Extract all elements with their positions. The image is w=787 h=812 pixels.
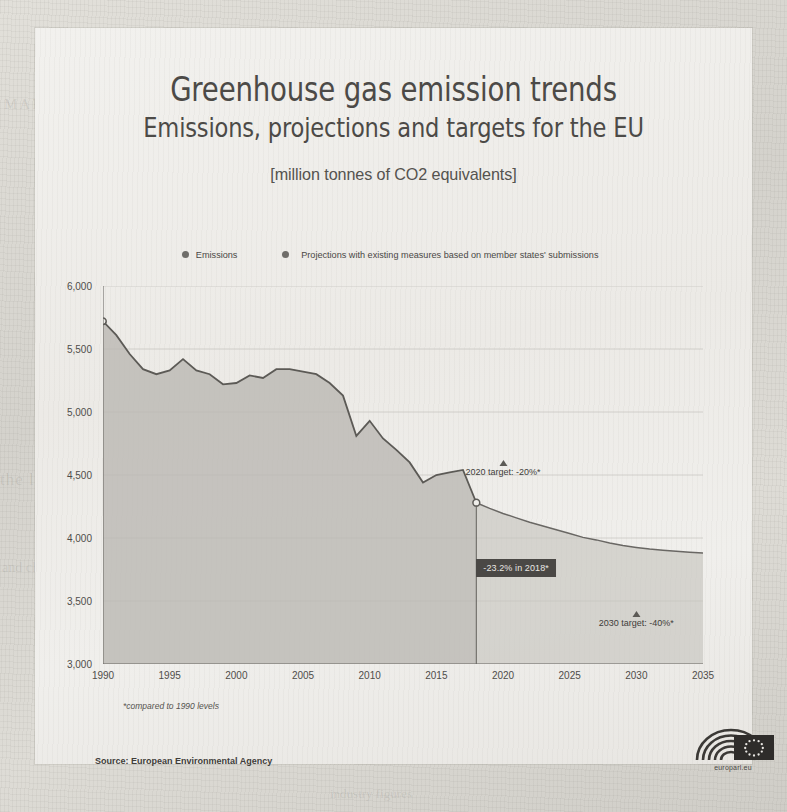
chart-unit-label: [million tonnes of CO2 equivalents] <box>53 165 734 185</box>
x-axis-tick-label: 2015 <box>425 670 447 681</box>
infographic-panel: Greenhouse gas emission trends Emissions… <box>35 28 752 764</box>
y-axis-tick-label: 5,000 <box>67 407 99 418</box>
x-axis-tick-label: 1990 <box>92 670 114 681</box>
y-axis-tick-label: 4,000 <box>67 533 99 544</box>
x-axis-tick-label: 2005 <box>292 670 314 681</box>
chart-legend: Emissions Projections with existing meas… <box>35 249 752 260</box>
parliament-hemicycle-icon <box>687 718 779 762</box>
triangle-up-icon <box>499 460 507 466</box>
x-axis-tick-label: 1995 <box>159 670 181 681</box>
source-label: Source: European Environmental Agency <box>95 756 272 766</box>
european-parliament-logo: europarl.eu <box>687 718 783 780</box>
x-axis-tick-label: 2035 <box>692 670 714 681</box>
y-axis-tick-label: 4,500 <box>67 470 99 481</box>
chart-plot-area: 6,0005,5005,0004,5004,0003,5003,00019901… <box>103 286 703 664</box>
annotation-label: 2030 target: -40%* <box>599 618 674 628</box>
legend-label: Emissions <box>196 249 238 260</box>
target-2020-annotation: 2020 target: -20%* <box>465 460 540 477</box>
page-subtitle: Emissions, projections and targets for t… <box>60 112 727 143</box>
legend-item-emissions[interactable]: Emissions <box>182 249 238 260</box>
logo-mark-icon <box>687 718 779 762</box>
logo-caption: europarl.eu <box>687 764 779 771</box>
chart-svg <box>103 286 703 664</box>
legend-item-projections[interactable]: Projections with existing measures based… <box>282 249 605 260</box>
triangle-up-icon <box>632 611 640 617</box>
annotation-label: 2020 target: -20%* <box>465 467 540 477</box>
x-axis-tick-label: 2030 <box>625 670 647 681</box>
page-title: Greenhouse gas emission trends <box>60 70 727 109</box>
legend-dot-icon <box>282 251 289 258</box>
legend-label: Projections with existing measures based… <box>302 249 599 260</box>
target-2030-annotation: 2030 target: -40%* <box>599 611 674 628</box>
x-axis-tick-label: 2020 <box>492 670 514 681</box>
x-axis-tick-label: 2000 <box>225 670 247 681</box>
footnote: *compared to 1990 levels <box>123 701 219 711</box>
x-axis-tick-label: 2010 <box>359 670 381 681</box>
y-axis-tick-label: 6,000 <box>67 281 99 292</box>
y-axis-tick-label: 5,500 <box>67 344 99 355</box>
legend-dot-icon <box>182 251 189 258</box>
x-axis-tick-label: 2025 <box>559 670 581 681</box>
title-block: Greenhouse gas emission trends Emissions… <box>35 70 752 185</box>
y-axis-tick-label: 3,000 <box>67 659 99 670</box>
callout-2018: -23.2% in 2018* <box>476 559 556 577</box>
y-axis-tick-label: 3,500 <box>67 596 99 607</box>
